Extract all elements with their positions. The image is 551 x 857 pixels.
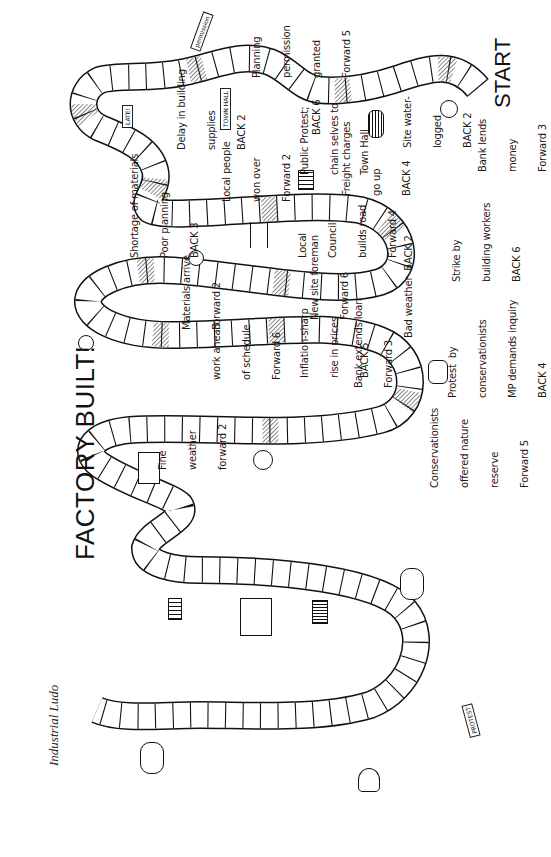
event-strike: Strike by building workers BACK 6 (432, 203, 542, 282)
event-materials-arrive: Materials arrive Forward 2 (162, 255, 242, 330)
event-text: permission (282, 25, 292, 78)
tree-icon (358, 768, 380, 792)
event-text: Local people (222, 141, 232, 202)
event-text: New site foreman (310, 235, 320, 320)
event-text: Protest by (448, 300, 458, 398)
event-text: work ahead (212, 324, 222, 380)
brick-wall-icon (168, 598, 182, 620)
event-text: supplies (207, 69, 217, 150)
event-text: Delay in building (177, 69, 187, 150)
event-text: MP demands inquiry (508, 300, 518, 398)
event-text: Materials arrive (182, 255, 192, 330)
event-text: building workers (482, 203, 492, 282)
event-freight-charges: Freight charges go up BACK 4 (322, 122, 432, 196)
event-text: of schedule (242, 324, 252, 380)
event-text: Forward 3 (538, 119, 548, 172)
event-text: BACK 4 (402, 122, 412, 196)
road-icon (250, 222, 268, 248)
event-public-protest-penalty: BACK 6 (312, 100, 322, 135)
event-text: BACK 6 (512, 203, 522, 282)
event-text: Forward 5 (520, 408, 530, 488)
banknotes-icon (312, 600, 328, 624)
event-text: Bank extends loan (354, 299, 364, 388)
rain-cloud-icon (400, 568, 424, 600)
event-protest-conservationists: Protest by conservationists MP demands i… (428, 300, 551, 398)
event-text: Inflation-sharp (300, 308, 310, 378)
event-text: logged (433, 96, 443, 148)
event-bank-extends-loan: Bank extends loan Forward 3 (334, 299, 414, 388)
foreman-icon (253, 450, 273, 470)
event-text: Forward 3 (384, 299, 394, 388)
event-text: weather (188, 424, 198, 470)
event-text: BACK 3 (190, 154, 200, 258)
event-delay-supplies: Delay in building supplies BACK 2 (157, 69, 267, 150)
event-text: conservationists (478, 300, 488, 398)
sun-cloud-icon (140, 742, 164, 774)
event-text: BACK 4 (538, 300, 548, 398)
event-fine-weather: Fine weather forward 2 (138, 424, 248, 470)
event-text: reserve (490, 408, 500, 488)
event-text: BACK 2 (237, 69, 247, 150)
finish-title: FACTORY BUILT! (70, 345, 101, 560)
event-text: forward 2 (218, 424, 228, 470)
event-text: Fine (158, 424, 168, 470)
event-text: Conservationists (430, 408, 440, 488)
price-chart-icon (240, 598, 272, 636)
event-text: BACK 2 (463, 96, 473, 148)
event-text: Shortage of materials (130, 154, 140, 258)
start-label: START (490, 38, 516, 108)
event-text: granted (312, 25, 322, 78)
event-text: Forward 2 (212, 255, 222, 330)
event-text: Forward 5 (342, 25, 352, 78)
event-text: Forward 2 (282, 141, 292, 202)
event-text: offered nature (460, 408, 470, 488)
event-shortage-materials: Shortage of materials Poor planning BACK… (110, 154, 220, 258)
event-text: Strike by (452, 203, 462, 282)
late-notice-icon: LATE! (122, 105, 133, 128)
event-text: Freight charges (342, 122, 352, 196)
game-subtitle: Industrial Ludo (46, 685, 62, 766)
event-text: won over (252, 141, 262, 202)
event-text: Poor planning (160, 154, 170, 258)
event-text: money (508, 119, 518, 172)
event-conservationists-reserve: Conservationists offered nature reserve … (410, 408, 550, 488)
event-text: go up (372, 122, 382, 196)
